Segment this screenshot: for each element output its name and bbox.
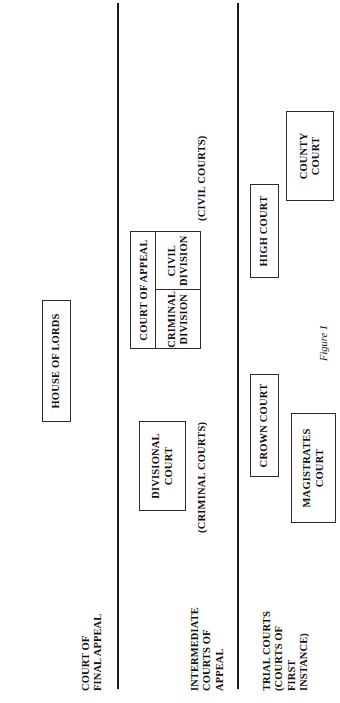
court-of-appeal-divisions: CRIMINAL DIVISION CIVIL DIVISION: [155, 232, 200, 348]
box-high-court[interactable]: HIGH COURT: [250, 184, 279, 278]
tier-label-trial-courts: TRIAL COURTS (COURTS OF FIRST INSTANCE): [261, 581, 311, 691]
figure-page: COURT OF FINAL APPEAL INTERMEDIATE COURT…: [0, 0, 340, 703]
box-divisional-court[interactable]: DIVISIONAL COURT: [139, 421, 186, 511]
caption-criminal-courts: (CRIMINAL COURTS): [196, 422, 207, 533]
tier-rule-2: [237, 3, 239, 689]
caption-civil-courts: (CIVIL COURTS): [196, 135, 207, 221]
rotated-diagram-wrapper: COURT OF FINAL APPEAL INTERMEDIATE COURT…: [0, 0, 340, 703]
box-magistrates-court[interactable]: MAGISTRATES COURT: [291, 413, 336, 523]
box-civil-division[interactable]: CIVIL DIVISION: [156, 232, 200, 291]
court-hierarchy-diagram: COURT OF FINAL APPEAL INTERMEDIATE COURT…: [0, 0, 340, 703]
box-crown-court[interactable]: CROWN COURT: [250, 374, 279, 477]
box-criminal-division[interactable]: CRIMINAL DIVISION: [156, 291, 200, 349]
tier-label-intermediate-appeal: INTERMEDIATE COURTS OF APPEAL: [189, 581, 226, 691]
box-county-court[interactable]: COUNTY COURT: [286, 111, 334, 201]
tier-label-final-appeal: COURT OF FINAL APPEAL: [80, 581, 105, 691]
box-court-of-appeal[interactable]: COURT OF APPEAL CRIMINAL DIVISION CIVIL …: [130, 231, 201, 349]
box-house-of-lords[interactable]: HOUSE OF LORDS: [42, 300, 71, 422]
figure-caption: Figure 1: [318, 325, 329, 361]
court-of-appeal-title: COURT OF APPEAL: [131, 232, 155, 348]
tier-rule-1: [117, 3, 119, 689]
